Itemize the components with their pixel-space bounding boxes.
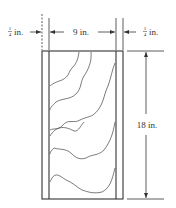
svg-text:1: 1 (9, 26, 12, 31)
svg-text:4: 4 (9, 32, 12, 37)
svg-text:4: 4 (144, 32, 147, 37)
svg-text:in.: in. (149, 27, 158, 37)
height-label: 18 in. (137, 120, 158, 130)
wood-grain (50, 52, 115, 193)
board-outer (42, 51, 123, 199)
width-label: 9 in. (73, 27, 89, 37)
board-diagram: 1 4 in. 9 in. 1 4 in. 18 in. (0, 0, 176, 208)
svg-text:1: 1 (144, 26, 147, 31)
left-strip-label: 1 4 in. (8, 26, 23, 37)
right-strip-label: 1 4 in. (143, 26, 158, 37)
svg-text:in.: in. (14, 27, 23, 37)
board (42, 51, 123, 199)
